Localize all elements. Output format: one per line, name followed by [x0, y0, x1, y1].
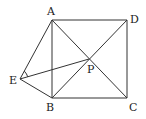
label-a: A	[46, 5, 56, 18]
label-d: D	[130, 13, 139, 26]
segment-ep	[20, 59, 89, 79]
geometry-figure: A D B C P E	[0, 0, 146, 119]
label-b: B	[46, 101, 54, 114]
segment-ea	[20, 20, 52, 79]
label-p: P	[87, 63, 95, 76]
angle-mark-e	[24, 71, 27, 77]
label-e: E	[9, 74, 17, 87]
label-c: C	[129, 101, 137, 114]
segment-eb	[20, 79, 52, 98]
